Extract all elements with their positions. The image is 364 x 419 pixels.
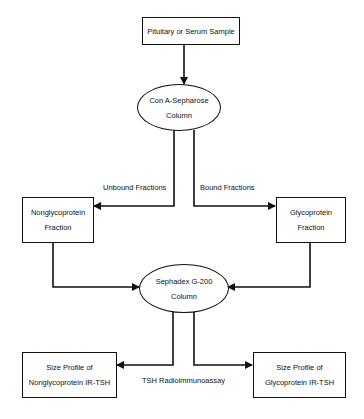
node-sephadex-column: Sephadex G-200 Column: [139, 264, 229, 313]
node-profile-glyco-line1: Size Profile of: [276, 360, 322, 375]
node-glyco-line2: Fraction: [297, 220, 324, 235]
node-glycoprotein-fraction: Glycoprotein Fraction: [276, 197, 346, 243]
node-sephadex-line1: Sephadex G-200: [156, 274, 213, 289]
node-profile-glyco-line2: Glycoprotein IR-TSH: [265, 375, 334, 390]
node-profile-nonglycoprotein: Size Profile of Nonglycoprotein IR-TSH: [22, 352, 117, 398]
node-profile-glycoprotein: Size Profile of Glycoprotein IR-TSH: [253, 352, 346, 398]
node-profile-nonglyco-line1: Size Profile of: [46, 360, 92, 375]
node-nonglycoprotein-fraction: Nonglycoprotein Fraction: [22, 197, 94, 243]
node-profile-nonglyco-line2: Nonglycoprotein IR-TSH: [29, 375, 110, 390]
node-sephadex-line2: Column: [171, 289, 197, 304]
node-sample-label: Pituitary or Serum Sample: [147, 24, 235, 39]
node-nonglyco-line1: Nonglycoprotein: [31, 205, 85, 220]
node-con-a-column: Con A-Sepharose Column: [137, 84, 221, 131]
node-sample: Pituitary or Serum Sample: [142, 17, 240, 45]
edge-label-assay: TSH Radioimmunoassay: [142, 376, 225, 385]
node-con-a-line1: Con A-Sepharose: [149, 93, 208, 108]
node-glyco-line1: Glycoprotein: [290, 205, 332, 220]
node-nonglyco-line2: Fraction: [44, 220, 71, 235]
node-con-a-line2: Column: [166, 108, 192, 123]
edge-label-bound: Bound Fractions: [200, 183, 255, 192]
edge-label-unbound: Unbound Fractions: [103, 183, 166, 192]
